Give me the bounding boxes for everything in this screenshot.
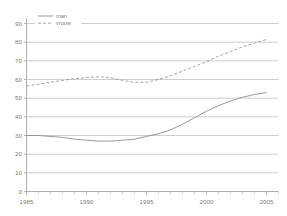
x-axis-labels-group: 19851990199520002005	[20, 198, 274, 205]
y-axis-tick-label: 20	[15, 150, 22, 157]
x-axis-tick-label: 2005	[260, 198, 274, 205]
x-axis-tick-label: 2000	[200, 198, 214, 205]
y-axis-tick-label: 30	[15, 132, 22, 139]
y-axis-tick-label: 50	[15, 94, 22, 101]
series-line-vrouw	[27, 39, 267, 86]
x-axis-tick-label: 1995	[140, 198, 154, 205]
y-axis-tick-label: 40	[15, 113, 22, 120]
legend-label-man: man	[56, 13, 67, 19]
x-axis-tick-label: 1985	[20, 198, 34, 205]
y-axis-tick-label: 0	[19, 188, 23, 195]
y-axis-tick-label: 60	[15, 76, 22, 83]
data-series-group	[27, 39, 267, 141]
y-axis-tick-label: 70	[15, 57, 22, 64]
legend-label-vrouw: vrouw	[56, 20, 72, 26]
x-axis-ticks-group	[27, 192, 279, 196]
line-chart: 0102030405060708090 19851990199520002005…	[0, 0, 287, 216]
y-axis-tick-label: 10	[15, 169, 22, 176]
y-axis-labels-group: 0102030405060708090	[15, 20, 22, 195]
chart-canvas: 0102030405060708090 19851990199520002005…	[0, 0, 287, 216]
y-axis-tick-label: 90	[15, 20, 22, 27]
x-axis-tick-label: 1990	[80, 198, 94, 205]
y-axis-tick-label: 80	[15, 38, 22, 45]
chart-legend: manvrouw	[35, 11, 81, 27]
